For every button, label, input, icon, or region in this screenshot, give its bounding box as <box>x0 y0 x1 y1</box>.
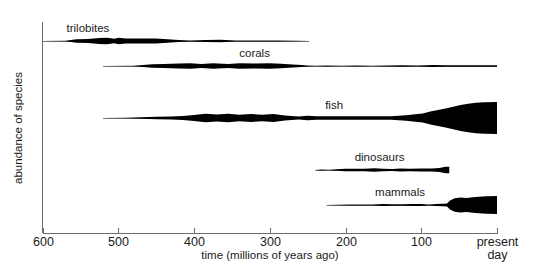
x-axis-tick-label-present-day-2: day <box>487 248 508 262</box>
y-axis-title: abundance of species <box>12 72 24 184</box>
spindle-diagram-chart: 600500400300200100presentday time (milli… <box>0 0 534 275</box>
spindle-trilobites <box>43 38 310 45</box>
x-axis-tick-label: 400 <box>184 235 205 249</box>
spindle-mammals <box>327 196 497 214</box>
x-axis-tick-label: present <box>477 235 519 249</box>
spindle-fish <box>103 102 497 134</box>
x-axis-tick-label: 100 <box>411 235 432 249</box>
series-labels-group: trilobitescoralsfishdinosaursmammals <box>67 22 426 198</box>
series-label-trilobites: trilobites <box>67 22 110 34</box>
spindle-series-group <box>43 38 498 214</box>
series-label-mammals: mammals <box>375 186 425 198</box>
x-axis-tick-label: 200 <box>336 235 357 249</box>
series-label-fish: fish <box>325 99 343 111</box>
series-label-corals: corals <box>239 47 270 59</box>
x-axis-tick-label: 600 <box>33 235 54 249</box>
spindle-corals <box>103 63 497 69</box>
x-axis-title: time (millions of years ago) <box>201 249 339 261</box>
x-axis-tick-label: 500 <box>108 235 129 249</box>
x-axis-ticks <box>44 228 498 234</box>
series-label-dinosaurs: dinosaurs <box>355 151 405 163</box>
spindle-dinosaurs <box>315 167 449 174</box>
x-axis-tick-label: 300 <box>260 235 281 249</box>
chart-canvas: 600500400300200100presentday time (milli… <box>0 0 534 275</box>
